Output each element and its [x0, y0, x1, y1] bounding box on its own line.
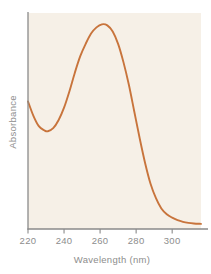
x-axis-title: Wavelength (nm) — [74, 254, 150, 265]
x-axis-tick-marks — [28, 229, 172, 234]
y-axis-title: Absorbance — [7, 95, 18, 149]
plot-area-background — [28, 13, 201, 229]
x-tick-label: 220 — [20, 235, 37, 246]
x-tick-label: 260 — [92, 235, 109, 246]
x-tick-label: 300 — [164, 235, 181, 246]
x-axis-tick-labels: 220240260280300 — [20, 235, 181, 246]
absorbance-spectrum-figure: 220240260280300 Wavelength (nm) Absorban… — [0, 0, 211, 274]
x-tick-label: 280 — [128, 235, 145, 246]
chart-canvas: 220240260280300 Wavelength (nm) Absorban… — [0, 0, 211, 274]
x-tick-label: 240 — [56, 235, 73, 246]
